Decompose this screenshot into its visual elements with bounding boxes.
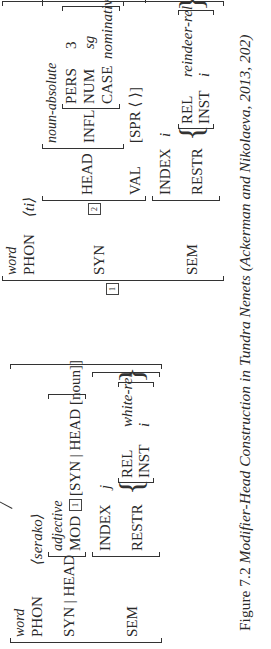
rel-label: REL	[180, 96, 195, 124]
head-type: noun-absolute	[44, 63, 59, 143]
avm-type: word	[12, 609, 27, 637]
restr-left-bracket	[118, 478, 154, 483]
caption-text: Modifier-Head Construction in Tundra Nen…	[236, 35, 253, 564]
phon-label: PHON	[22, 234, 37, 275]
figure-caption: Figure 7.2 Modifier-Head Construction in…	[236, 35, 254, 631]
inst-value: i	[137, 423, 152, 427]
val-label: VAL	[128, 166, 143, 195]
mod-value: [SYN | HEAD [noun]]	[68, 360, 83, 496]
restr-label: RESTR	[190, 148, 205, 195]
sem-left-bracket	[152, 196, 220, 201]
head-label: HEAD	[80, 153, 95, 195]
syn-tag-box: 2	[88, 203, 101, 215]
outer-right-bracket	[2, 1, 224, 6]
restr-left-bracket	[178, 124, 214, 129]
pers-label: PERS	[64, 68, 79, 104]
outer-tag-box: 1	[106, 283, 119, 295]
inst-value: i	[197, 73, 212, 77]
outer-left-bracket	[2, 276, 224, 281]
index-value: j	[98, 485, 113, 489]
caption-label: Figure 7.2	[236, 567, 253, 631]
inst-label: INST	[197, 91, 212, 124]
mod-label: MOD	[68, 516, 83, 551]
phon-label: PHON	[30, 596, 45, 637]
head-right-bracket	[48, 394, 86, 399]
sem-label: SEM	[125, 606, 140, 637]
phon-value: ⟨serako⟩	[30, 513, 45, 565]
index-value: i	[158, 133, 173, 137]
sem-left-bracket	[92, 552, 160, 557]
sem-label: SEM	[185, 244, 200, 275]
syn-label: SYN	[92, 245, 107, 275]
spr-value: [SPR ⟨ ⟩]	[128, 87, 143, 143]
syn-head-label: SYN | HEAD	[62, 555, 77, 637]
mod-tag-box: 1	[69, 499, 82, 511]
phon-value: ⟨ti⟩	[22, 197, 37, 217]
head-left-bracket	[48, 552, 86, 557]
index-label: INDEX	[158, 148, 173, 195]
infl-left-bracket	[62, 104, 120, 109]
pers-value: 3	[64, 42, 79, 50]
syn-left-bracket	[42, 196, 146, 201]
head-type: adjective	[50, 500, 65, 551]
case-label: CASE	[100, 66, 115, 104]
index-label: INDEX	[98, 504, 113, 551]
num-label: NUM	[82, 69, 97, 104]
infl-label: INFL	[82, 110, 97, 143]
outer-right-bracket	[10, 364, 162, 369]
figure-7-2: word PHON ⟨serako⟩ SYN | HEAD adjective …	[0, 0, 271, 649]
head-left-bracket	[42, 144, 124, 149]
infl-right-bracket	[62, 6, 120, 11]
rel-label: REL	[120, 450, 135, 478]
avm-type: word	[4, 247, 19, 275]
rel-value: reindeer-rel	[180, 6, 195, 77]
num-value: sg	[82, 36, 97, 49]
inst-label: INST	[137, 445, 152, 478]
tree-branch-line	[0, 498, 13, 509]
restr-label: RESTR	[130, 504, 145, 551]
sem-right-bracket	[92, 372, 160, 377]
outer-left-bracket	[10, 638, 162, 643]
